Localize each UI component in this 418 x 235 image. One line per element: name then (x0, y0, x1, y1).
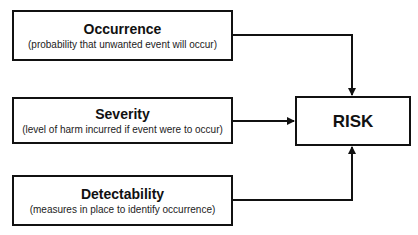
occurrence-to-risk-arrow (233, 35, 352, 95)
detectability-box: Detectability (measures in place to iden… (12, 175, 233, 226)
detectability-description: (measures in place to identify occurrenc… (30, 203, 216, 216)
occurrence-box: Occurrence (probability that unwanted ev… (12, 10, 233, 61)
detectability-title: Detectability (81, 186, 164, 203)
detectability-to-risk-arrow (233, 147, 352, 200)
risk-box: RISK (295, 96, 411, 146)
severity-title: Severity (95, 106, 149, 123)
occurrence-description: (probability that unwanted event will oc… (28, 38, 217, 51)
severity-box: Severity (level of harm incurred if even… (12, 97, 233, 144)
occurrence-title: Occurrence (84, 21, 162, 38)
severity-description: (level of harm incurred if event were to… (22, 123, 223, 136)
risk-title: RISK (333, 113, 374, 130)
